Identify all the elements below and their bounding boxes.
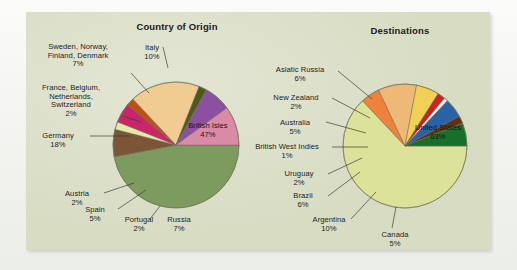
label-australia: Australia5% — [266, 119, 324, 136]
label-spain: Spain5% — [74, 206, 116, 223]
label-sweden-norway-finland-denmark: Sweden, Norway,Finland, Denmark7% — [26, 43, 130, 69]
country-of-origin-pie — [113, 82, 239, 208]
destinations-pie — [343, 84, 467, 208]
label-british-isles: British Isles47% — [178, 122, 238, 139]
figure-screenshot: Country of Origin Destinations Sweden, N… — [0, 0, 517, 270]
leader-spain — [118, 190, 146, 209]
leader-canada — [392, 207, 396, 228]
label-france-belgium-netherlands-switzerland: France, Belgium,Netherlands,Switzerland2… — [22, 84, 120, 118]
label-brazil: Brazil6% — [280, 192, 326, 209]
label-portugal: Portugal2% — [114, 216, 164, 233]
label-italy: Italy10% — [132, 44, 172, 61]
label-canada: Canada5% — [371, 231, 419, 248]
label-uruguay: Uruguay2% — [272, 170, 326, 187]
label-united-states: United States63% — [404, 124, 472, 141]
label-asiatic-russia: Asiatic Russia6% — [264, 66, 336, 83]
leader-argentina — [351, 192, 376, 219]
label-british-west-indies: British West Indies1% — [244, 143, 330, 160]
leader-sweden — [131, 73, 149, 93]
leader-asiatic-russia — [338, 71, 372, 99]
label-russia: Russia7% — [158, 216, 200, 233]
label-argentina: Argentina10% — [300, 216, 358, 233]
label-germany: Germany18% — [28, 132, 88, 149]
label-new-zealand: New Zealand2% — [262, 94, 330, 111]
leader-brazil — [328, 172, 360, 196]
